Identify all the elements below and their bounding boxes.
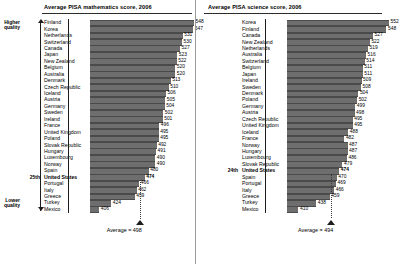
country-label: Korea xyxy=(240,19,287,25)
country-label: Spain xyxy=(240,174,287,180)
score-value: 514 xyxy=(366,58,374,64)
country-label: Czech Republic xyxy=(42,84,90,90)
country-label: Italy xyxy=(42,187,90,193)
score-value: 495 xyxy=(160,135,168,141)
country-label: Finland xyxy=(240,26,287,32)
country-label: Sweden xyxy=(42,109,90,115)
score-value: 495 xyxy=(354,122,362,128)
score-value: 490 xyxy=(157,155,165,161)
country-label: United States xyxy=(42,174,90,180)
country-label: Iceland xyxy=(42,90,90,96)
score-value: 438 xyxy=(318,200,326,206)
country-label: Denmark xyxy=(240,90,287,96)
score-value: 548 xyxy=(388,26,396,32)
score-value: 504 xyxy=(166,103,174,109)
score-value: 501 xyxy=(164,116,172,122)
panel-math-rows: HigherqualityFinland548Korea547Netherlan… xyxy=(0,19,195,212)
score-value: 487 xyxy=(349,142,357,148)
country-label: Portugal xyxy=(240,180,287,186)
country-label: Slovak Republic xyxy=(240,161,287,167)
higher-quality-label: Higherquality xyxy=(0,20,22,30)
score-value: 527 xyxy=(375,32,383,38)
score-value: 466 xyxy=(336,187,344,193)
score-value: 487 xyxy=(349,148,357,154)
panel-science-title: Average PISA science score, 2006 xyxy=(208,4,302,10)
score-value: 495 xyxy=(354,116,362,122)
chart-row: Mexico410 xyxy=(196,206,388,212)
score-value: 516 xyxy=(368,52,376,58)
country-label: Japan xyxy=(42,51,90,57)
lower-quality-label: Lowerquality xyxy=(0,198,22,208)
score-bar xyxy=(90,206,99,213)
score-value: 474 xyxy=(341,167,349,173)
score-value: 505 xyxy=(167,97,175,103)
country-label: Luxembourg xyxy=(240,154,287,160)
panel-science-title-rule xyxy=(204,13,382,14)
score-value: 492 xyxy=(158,142,166,148)
quality-axis-arrow xyxy=(40,23,41,211)
score-value: 496 xyxy=(161,122,169,128)
score-value: 522 xyxy=(178,58,186,64)
panel-math-chart: HigherqualityFinland548Korea547Netherlan… xyxy=(0,19,195,212)
country-label: Slovak Republic xyxy=(42,142,90,148)
panel-math-title: Average PISA mathematics score, 2006 xyxy=(44,4,152,10)
panel-science-chart: Korea552Finland548Canada527New Zealand52… xyxy=(196,19,388,212)
score-value: 491 xyxy=(158,148,166,154)
bar-cell: 406 xyxy=(90,206,195,212)
country-label: Switzerland xyxy=(42,39,90,45)
score-value: 506 xyxy=(168,90,176,96)
score-value: 502 xyxy=(359,97,367,103)
score-value: 466 xyxy=(141,180,149,186)
score-value: 459 xyxy=(331,193,339,199)
score-value: 504 xyxy=(360,90,368,96)
score-value: 508 xyxy=(362,84,370,90)
country-label: Iceland xyxy=(240,129,287,135)
score-value: 531 xyxy=(184,32,192,38)
score-value: 469 xyxy=(338,180,346,186)
panel-math: Average PISA mathematics score, 2006 Hig… xyxy=(0,0,195,264)
score-value: 498 xyxy=(356,110,364,116)
country-label: Turkey xyxy=(42,199,90,205)
us-rank-label: 25th xyxy=(22,174,42,180)
country-label: France xyxy=(240,135,287,141)
score-value: 490 xyxy=(157,161,165,167)
country-label: Portugal xyxy=(42,180,90,186)
score-value: 406 xyxy=(101,206,109,212)
score-value: 511 xyxy=(364,71,372,77)
score-value: 523 xyxy=(179,52,187,58)
country-label: Mexico xyxy=(240,206,287,212)
score-value: 480 xyxy=(150,167,158,173)
country-label: Poland xyxy=(42,135,90,141)
country-label: Czech Republic xyxy=(240,116,287,122)
country-label: Mexico xyxy=(42,206,90,212)
country-label: United Kingdom xyxy=(42,129,90,135)
score-value: 530 xyxy=(184,39,192,45)
higher-quality-arrow-icon xyxy=(38,19,44,23)
panel-science-axis xyxy=(265,19,266,213)
country-label: Australia xyxy=(240,51,287,57)
panel-math-title-rule xyxy=(42,13,192,14)
country-label: United Kingdom xyxy=(240,122,287,128)
country-label: Greece xyxy=(42,193,90,199)
country-label: Austria xyxy=(42,96,90,102)
average-dotted-line xyxy=(331,174,332,219)
country-label: Japan xyxy=(240,71,287,77)
country-label: Austria xyxy=(240,109,287,115)
score-value: 482 xyxy=(346,135,354,141)
score-value: 502 xyxy=(165,110,173,116)
lower-quality-arrow-icon xyxy=(38,207,44,211)
score-value: 424 xyxy=(113,200,121,206)
average-dotted-line xyxy=(140,180,141,218)
country-label: Canada xyxy=(42,45,90,51)
score-value: 520 xyxy=(177,64,185,70)
score-value: 513 xyxy=(172,77,180,83)
score-value: 511 xyxy=(364,64,372,70)
score-value: 520 xyxy=(177,71,185,77)
country-label: Norway xyxy=(240,142,287,148)
country-label: Belgium xyxy=(42,64,90,70)
country-label: Korea xyxy=(42,26,90,32)
score-value: 410 xyxy=(300,206,308,212)
country-label: Canada xyxy=(240,32,287,38)
